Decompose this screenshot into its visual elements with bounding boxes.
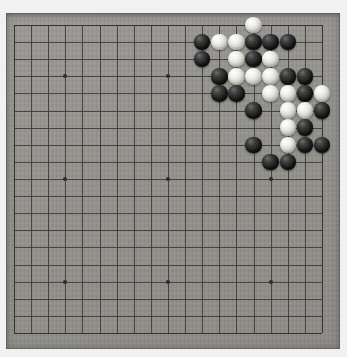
stone-white-c15-r4[interactable] (262, 85, 278, 101)
go-board-photo (0, 0, 347, 357)
stone-white-c18-r4[interactable] (314, 85, 330, 101)
stone-black-c17-r6[interactable] (297, 119, 313, 135)
stone-black-c14-r7[interactable] (245, 137, 261, 153)
star-point-8 (269, 280, 273, 284)
stone-black-c17-r7[interactable] (297, 137, 313, 153)
board-grid (0, 0, 347, 357)
grid-line-vertical-4 (82, 25, 83, 333)
stone-white-c16-r4[interactable] (280, 85, 296, 101)
stone-black-c17-r4[interactable] (297, 85, 313, 101)
stone-black-c11-r1[interactable] (194, 34, 210, 50)
star-point-6 (63, 280, 67, 284)
grid-line-horizontal-18 (14, 333, 322, 334)
star-point-5 (269, 177, 273, 181)
stone-black-c14-r5[interactable] (245, 102, 261, 118)
stone-black-c15-r1[interactable] (262, 34, 278, 50)
stone-black-c12-r4[interactable] (211, 85, 227, 101)
grid-line-vertical-1 (31, 25, 32, 333)
stone-white-c14-r3[interactable] (245, 68, 261, 84)
grid-line-vertical-8 (151, 25, 152, 333)
star-point-7 (166, 280, 170, 284)
stone-white-c14-r0[interactable] (245, 17, 261, 33)
stone-black-c11-r2[interactable] (194, 51, 210, 67)
grid-line-vertical-18 (322, 25, 323, 333)
stone-white-c15-r2[interactable] (262, 51, 278, 67)
grid-line-vertical-2 (48, 25, 49, 333)
stone-black-c16-r1[interactable] (280, 34, 296, 50)
stone-white-c13-r1[interactable] (228, 34, 244, 50)
stone-black-c16-r3[interactable] (280, 68, 296, 84)
stone-white-c16-r6[interactable] (280, 119, 296, 135)
stone-white-c13-r2[interactable] (228, 51, 244, 67)
stone-black-c12-r3[interactable] (211, 68, 227, 84)
stone-black-c14-r2[interactable] (245, 51, 261, 67)
grid-line-vertical-6 (117, 25, 118, 333)
grid-line-vertical-0 (14, 25, 15, 333)
star-point-0 (63, 74, 67, 78)
star-point-4 (166, 177, 170, 181)
star-point-1 (166, 74, 170, 78)
stone-black-c18-r5[interactable] (314, 102, 330, 118)
stone-white-c12-r1[interactable] (211, 34, 227, 50)
stone-black-c15-r8[interactable] (262, 154, 278, 170)
stone-black-c13-r4[interactable] (228, 85, 244, 101)
grid-line-vertical-11 (202, 25, 203, 333)
stone-black-c17-r3[interactable] (297, 68, 313, 84)
star-point-3 (63, 177, 67, 181)
grid-line-vertical-5 (100, 25, 101, 333)
stone-white-c16-r7[interactable] (280, 137, 296, 153)
stone-white-c15-r3[interactable] (262, 68, 278, 84)
grid-line-vertical-7 (134, 25, 135, 333)
grid-line-vertical-10 (185, 25, 186, 333)
stone-white-c16-r5[interactable] (280, 102, 296, 118)
stone-black-c14-r1[interactable] (245, 34, 261, 50)
stone-white-c13-r3[interactable] (228, 68, 244, 84)
stone-white-c17-r5[interactable] (297, 102, 313, 118)
stone-black-c16-r8[interactable] (280, 154, 296, 170)
stone-black-c18-r7[interactable] (314, 137, 330, 153)
